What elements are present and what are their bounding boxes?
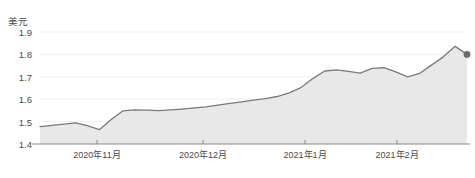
plot-area: [0, 0, 475, 178]
line-chart: 美元 1.41.51.61.71.81.9 2020年11月2020年12月20…: [0, 0, 475, 178]
last-point-marker: [464, 51, 471, 58]
series-area-fill: [40, 46, 467, 144]
